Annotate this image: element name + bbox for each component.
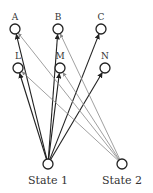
node-circle [43,159,53,169]
node-n: N [100,51,110,73]
node-circle [96,24,106,34]
node-circle [100,63,110,73]
node-label: A [11,12,19,22]
edge-s2-to-b [60,34,120,160]
node-circle [13,63,23,73]
node-circle [55,63,65,73]
node-circle [53,24,63,34]
edge-s1-to-l [20,73,47,159]
node-label: State 2 [102,174,142,187]
node-c: C [96,12,106,34]
node-label: State 1 [28,174,68,187]
node-label: L [15,51,21,61]
node-circle [10,24,20,34]
node-circle [117,159,127,169]
nodes-layer: ABCLMNState 1State 2 [10,12,142,187]
node-b: B [53,12,63,34]
node-m: M [55,51,65,73]
node-label: B [55,12,62,22]
state-node-s1: State 1 [28,159,68,187]
state-graph-diagram: ABCLMNState 1State 2 [0,0,153,193]
node-label: C [98,12,105,22]
node-label: N [101,51,109,61]
node-label: M [55,51,64,61]
edge-s2-to-m [63,73,119,160]
state-node-s2: State 2 [102,159,142,187]
node-a: A [10,12,20,34]
